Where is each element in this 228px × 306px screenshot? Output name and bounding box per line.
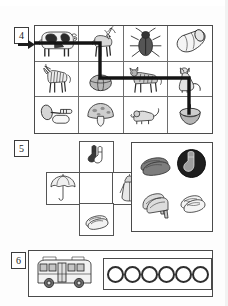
cow-icon [35, 26, 78, 61]
ball-icon [79, 62, 122, 97]
high-heels-icon[interactable] [137, 187, 177, 221]
mouse-icon [124, 97, 167, 133]
deer-icon [79, 26, 122, 61]
maze-cell-zebra[interactable] [35, 62, 79, 98]
ring-answer-row [103, 258, 212, 290]
barrel-icon [168, 26, 212, 61]
mushroom-icon [79, 97, 122, 133]
ring-5[interactable] [175, 266, 192, 283]
maze-cell-spinning-top[interactable] [168, 97, 212, 133]
cat-icon [168, 62, 212, 97]
answer-box [131, 142, 213, 232]
maze-cell-horn[interactable] [35, 97, 79, 133]
sock-circle-icon[interactable] [175, 147, 208, 180]
counting-box [28, 250, 213, 297]
exercise-number-5: 5 [14, 140, 29, 157]
worksheet-page: 4 [0, 0, 228, 306]
maze-cell-deer[interactable] [79, 26, 123, 62]
maze-cell-cow[interactable] [35, 26, 79, 62]
ring-3[interactable] [141, 266, 158, 283]
sandals-icon[interactable] [177, 188, 209, 220]
beetle-icon [124, 26, 167, 61]
zebra-icon [35, 62, 78, 97]
maze-cell-mouse[interactable] [124, 97, 168, 133]
maze-cell-beetle[interactable] [124, 26, 168, 62]
loafers-icon[interactable] [137, 150, 173, 180]
maze-cell-barrel[interactable] [168, 26, 212, 62]
horn-icon [35, 97, 78, 133]
ring-2[interactable] [124, 266, 141, 283]
cross-cell-slippers[interactable] [79, 203, 114, 236]
cross-cell-empty[interactable] [79, 172, 114, 205]
bus-icon [34, 255, 96, 292]
socks-icon [80, 142, 113, 173]
scan-edge-right [225, 0, 228, 306]
cross-cell-socks[interactable] [79, 141, 114, 174]
ring-1[interactable] [107, 266, 124, 283]
slippers-icon [80, 204, 113, 235]
maze-cell-cat[interactable] [168, 62, 212, 98]
maze-grid [34, 25, 213, 134]
maze-cell-ball[interactable] [79, 62, 123, 98]
spinning-top-icon [168, 97, 212, 133]
tiger-icon [124, 62, 167, 97]
ring-6[interactable] [192, 266, 209, 283]
maze-cell-tiger[interactable] [124, 62, 168, 98]
exercise-number-6: 6 [11, 252, 26, 269]
scan-edge-top [0, 0, 228, 6]
umbrella-icon [47, 173, 80, 204]
cross-cell-umbrella[interactable] [46, 172, 81, 205]
maze-cell-mushroom[interactable] [79, 97, 123, 133]
ring-4[interactable] [158, 266, 175, 283]
